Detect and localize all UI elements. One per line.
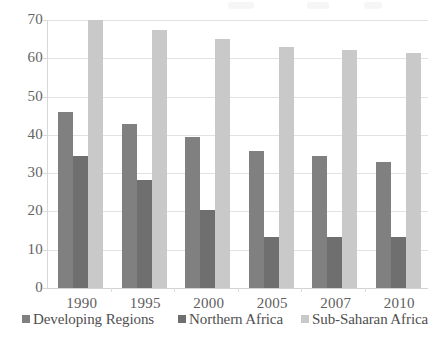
bar-group (111, 20, 175, 288)
bar-group (365, 20, 429, 288)
y-tick-mark (42, 58, 48, 59)
legend-swatch-icon (301, 315, 309, 323)
y-tick-label: 0 (3, 280, 43, 295)
y-tick-mark (42, 211, 48, 212)
x-tick-label: 2000 (179, 295, 239, 312)
chart-legend: Developing Regions Northern Africa Sub-S… (22, 311, 432, 333)
y-tick-mark (42, 288, 48, 289)
x-tick-label: 2010 (369, 295, 429, 312)
category-separator (238, 288, 239, 292)
bar (185, 137, 200, 288)
y-tick-label: 30 (3, 165, 43, 180)
bar (264, 237, 279, 288)
x-tick-label: 1995 (115, 295, 175, 312)
y-tick-label: 70 (3, 12, 43, 27)
bar (58, 112, 73, 288)
y-tick-mark (42, 173, 48, 174)
legend-item-developing-regions: Developing Regions (22, 311, 154, 327)
bar-chart-figure: 010203040506070 199019952000200520072010… (0, 0, 435, 345)
legend-label: Northern Africa (189, 311, 283, 327)
bar-group (174, 20, 238, 288)
cropped-caption-artifact (307, 2, 329, 9)
bar-group (238, 20, 302, 288)
legend-swatch-icon (178, 315, 186, 323)
bar (249, 151, 264, 288)
x-tick-label: 1990 (52, 295, 112, 312)
cropped-caption-artifact (364, 2, 382, 9)
bar (73, 156, 88, 288)
bar (200, 210, 215, 288)
bar (342, 50, 357, 288)
plot-area (47, 20, 428, 288)
y-tick-label: 20 (3, 203, 43, 218)
bar-group (47, 20, 111, 288)
category-separator (174, 288, 175, 292)
bar (406, 53, 421, 288)
y-tick-mark (42, 135, 48, 136)
bar (391, 237, 406, 288)
bar (376, 162, 391, 288)
y-tick-label: 60 (3, 50, 43, 65)
category-separator (301, 288, 302, 292)
bar (122, 124, 137, 288)
bar (312, 156, 327, 288)
y-tick-label: 10 (3, 242, 43, 257)
legend-label: Sub-Saharan Africa (312, 311, 428, 327)
y-tick-label: 40 (3, 127, 43, 142)
bar-group (301, 20, 365, 288)
bar (137, 180, 152, 288)
category-separator (111, 288, 112, 292)
bar (279, 47, 294, 288)
y-tick-label: 50 (3, 89, 43, 104)
legend-swatch-icon (22, 315, 30, 323)
x-tick-label: 2005 (242, 295, 302, 312)
bar (327, 237, 342, 288)
bar (88, 20, 103, 288)
cropped-caption-artifact (228, 2, 254, 9)
bar (152, 30, 167, 288)
legend-item-northern-africa: Northern Africa (178, 311, 283, 327)
bar (215, 39, 230, 288)
legend-label: Developing Regions (33, 311, 154, 327)
category-separator (365, 288, 366, 292)
x-tick-label: 2007 (306, 295, 366, 312)
y-tick-mark (42, 97, 48, 98)
legend-item-sub-saharan-africa: Sub-Saharan Africa (301, 311, 428, 327)
y-tick-mark (42, 20, 48, 21)
y-tick-mark (42, 250, 48, 251)
